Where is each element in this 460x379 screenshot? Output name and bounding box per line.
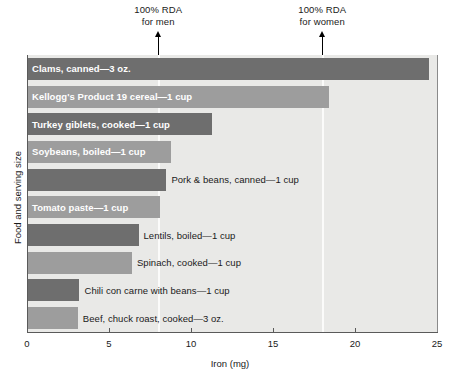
bar-label: Soybeans, boiled—1 cup — [32, 147, 146, 157]
bar — [27, 252, 132, 274]
bar-label: Tomato paste—1 cup — [32, 203, 128, 213]
annotation-label-rda-men: 100% RDAfor men — [98, 4, 218, 27]
bar — [27, 169, 166, 191]
x-tick-label: 25 — [432, 338, 443, 349]
bar-label: Lentils, boiled—1 cup — [144, 231, 236, 241]
bar-label: Kellogg's Product 19 cereal—1 cup — [32, 92, 192, 102]
bar-label: Beef, chuck roast, cooked—3 oz. — [83, 314, 224, 324]
x-tick — [273, 328, 274, 332]
iron-content-bar-chart: 100% RDAfor men100% RDAfor women Clams, … — [0, 0, 460, 379]
y-axis-title: Food and serving size — [12, 151, 23, 244]
annotation-arrow-rda-women — [322, 36, 323, 55]
x-axis-title: Iron (mg) — [0, 358, 460, 369]
x-tick — [355, 328, 356, 332]
annotation-label-rda-women: 100% RDAfor women — [262, 4, 382, 27]
bar-label: Chili con carne with beans—1 cup — [84, 286, 229, 296]
x-axis-line — [27, 332, 438, 333]
annotation-line-1: 100% RDA — [98, 4, 218, 16]
annotation-line-1: 100% RDA — [262, 4, 382, 16]
annotation-line-2: for men — [98, 16, 218, 28]
bar-label: Clams, canned—3 oz. — [32, 64, 131, 74]
bar — [27, 307, 78, 329]
annotation-line-2: for women — [262, 16, 382, 28]
y-axis-line — [27, 55, 28, 333]
bar — [27, 224, 139, 246]
annotation-arrow-rda-men — [158, 36, 159, 55]
x-tick-label: 10 — [186, 338, 197, 349]
x-tick-label: 15 — [268, 338, 279, 349]
x-tick-label: 5 — [106, 338, 111, 349]
x-tick — [109, 328, 110, 332]
bar-label: Pork & beans, canned—1 cup — [171, 175, 299, 185]
bar-label: Turkey giblets, cooked—1 cup — [32, 120, 170, 130]
bar — [27, 279, 79, 301]
x-tick-label: 20 — [350, 338, 361, 349]
x-tick — [191, 328, 192, 332]
bar-label: Spinach, cooked—1 cup — [137, 258, 241, 268]
x-tick-label: 0 — [24, 338, 29, 349]
